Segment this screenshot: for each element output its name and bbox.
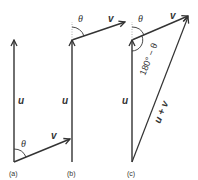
angle-label-a: θ [21,138,26,149]
panel-b: θ u v (b) [62,13,125,178]
v-label-c: v [170,10,177,21]
caption-b: (b) [67,170,76,178]
u-label-b: u [62,95,68,106]
v-label-b: v [108,13,115,24]
u-label-c: u [122,95,128,106]
angle-arc-c [132,27,144,35]
angle-arc-a [14,149,26,157]
caption-c: (c) [127,170,135,178]
angle-label-b: θ [78,13,83,24]
angle-arc-b [72,27,84,36]
u-label-a: u [18,95,24,106]
angle-label-c: θ [138,13,143,24]
vector-sum-c [132,17,188,162]
caption-a: (a) [9,170,18,178]
vector-addition-diagram: θ u v (a) θ u v (b) θ u v 180° − θ u + v… [0,0,198,180]
v-label-a: v [51,130,58,141]
vector-v-b [72,22,125,40]
panel-a: θ u v (a) [9,40,70,178]
panel-c: θ u v 180° − θ u + v (c) [122,10,188,178]
